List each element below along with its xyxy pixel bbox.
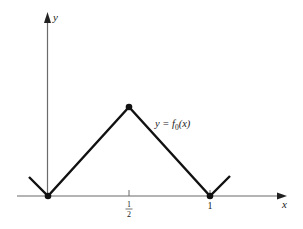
tick-label-half-denominator: 2	[127, 210, 131, 219]
tick-label-one: 1	[208, 200, 213, 211]
curve-label-suffix: (x)	[179, 118, 191, 130]
function-curve	[29, 107, 230, 196]
y-axis-label: y	[52, 11, 58, 23]
point-one	[207, 193, 214, 200]
curve-label-prefix: y = f	[154, 118, 177, 129]
tick-label-half-numerator: 1	[127, 200, 131, 209]
curve-label: y = f0(x)	[154, 118, 191, 132]
point-origin	[45, 193, 52, 200]
triangle-function-figure: y x 1 2 1 y = f0(x)	[0, 0, 303, 229]
x-axis-label: x	[281, 198, 287, 210]
point-peak	[126, 104, 133, 111]
y-axis-arrow-icon	[44, 12, 51, 23]
